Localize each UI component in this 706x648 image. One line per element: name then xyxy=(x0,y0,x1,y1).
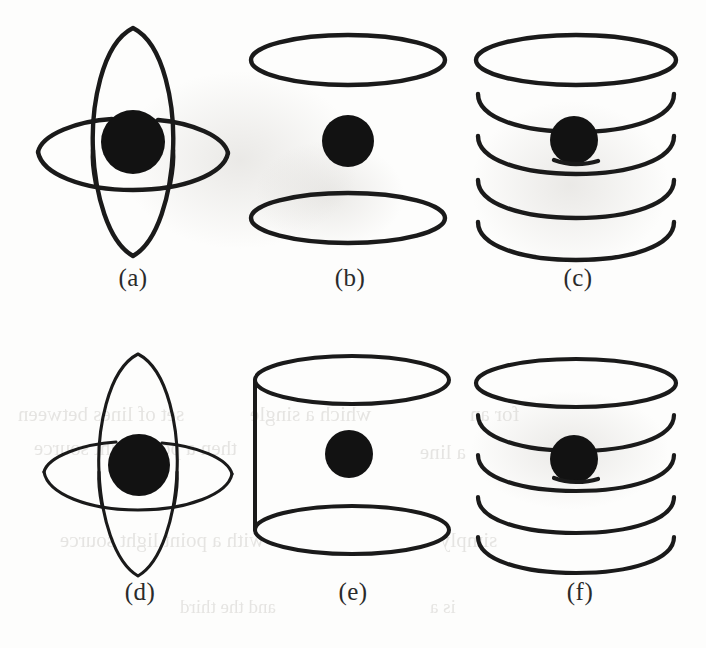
caption-e: (e) xyxy=(308,578,398,606)
orbit-horizontal-back-left xyxy=(38,119,112,152)
figure-canvas: set of lines between which a single for … xyxy=(0,0,706,648)
coil-turn-5 xyxy=(478,537,674,573)
panel-e-drawing xyxy=(248,356,456,568)
orbit-horizontal-back-right xyxy=(162,443,232,474)
orbit-horizontal-back-left xyxy=(44,442,116,472)
coil-turn-1-closed xyxy=(476,35,676,85)
panel-d xyxy=(36,348,244,580)
orbit-horizontal-back-right xyxy=(158,120,228,153)
bleed-text: and the third xyxy=(180,596,276,618)
coil-turn-4 xyxy=(478,497,674,533)
panel-a xyxy=(28,22,238,262)
caption-d: (d) xyxy=(95,578,185,606)
panel-f-drawing xyxy=(470,355,686,573)
nucleus xyxy=(325,430,373,478)
panel-c-drawing xyxy=(470,30,686,262)
caption-b: (b) xyxy=(305,264,395,292)
nucleus xyxy=(550,435,598,483)
panel-b xyxy=(245,28,455,263)
panel-c xyxy=(470,30,686,262)
nucleus xyxy=(101,110,165,174)
coil-turn-4 xyxy=(478,180,674,218)
panel-e xyxy=(248,356,456,568)
nucleus xyxy=(108,434,170,496)
coil-turn-5 xyxy=(478,222,674,260)
nucleus xyxy=(550,116,598,164)
cylinder-ring-top xyxy=(255,356,449,404)
orbit-ring-top xyxy=(251,35,445,85)
orbit-vertical-front-sliver xyxy=(170,150,173,184)
orbit-vertical-front-sliver xyxy=(93,150,96,184)
panel-d-drawing xyxy=(36,348,244,580)
coil-turn-1-closed xyxy=(476,359,676,407)
cylinder-ring-bottom xyxy=(255,506,449,554)
caption-f: (f) xyxy=(535,578,625,606)
bleed-text: is a xyxy=(430,596,456,618)
nucleus xyxy=(322,115,374,167)
panel-a-drawing xyxy=(28,22,238,262)
caption-c: (c) xyxy=(533,264,623,292)
panel-f xyxy=(470,355,686,573)
panel-b-drawing xyxy=(245,28,455,263)
orbit-ring-bottom xyxy=(251,193,445,243)
caption-a: (a) xyxy=(88,264,178,292)
